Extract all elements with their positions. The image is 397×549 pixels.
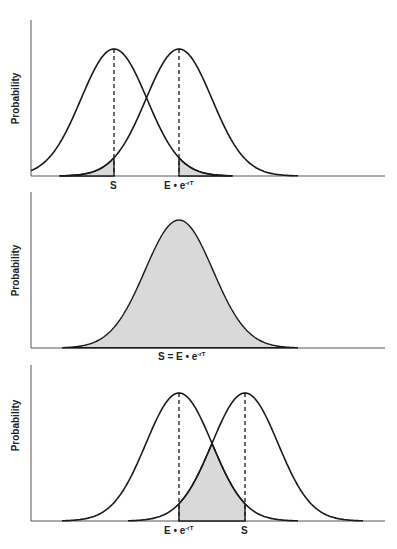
middle-xlabel-sup: -rT <box>197 351 205 357</box>
bottom-xlabel-ee-base: E • e <box>164 525 185 536</box>
bottom-xlabel-ee-sup: -rT <box>185 525 193 531</box>
middle-xlabel-base: S = E • e <box>158 351 197 362</box>
top-xlabel-s: S <box>110 180 117 191</box>
top-ylabel: Probability <box>10 69 21 129</box>
curves-layer <box>31 20 385 521</box>
middle-shaded-curve <box>62 220 298 348</box>
bottom-shade-middle <box>179 443 245 521</box>
top-xlabel-ee-sup: -rT <box>185 180 193 186</box>
bottom-ylabel: Probability <box>10 396 21 456</box>
top-xlabel-ee: E • e-rT <box>164 180 193 191</box>
middle-xlabel: S = E • e-rT <box>158 351 205 362</box>
diagram-canvas <box>0 0 397 549</box>
middle-ylabel: Probability <box>10 241 21 301</box>
top-xlabel-ee-base: E • e <box>164 180 185 191</box>
bottom-xlabel-ee: E • e-rT <box>164 525 193 536</box>
bottom-xlabel-s: S <box>241 525 248 536</box>
top-curve-left <box>31 49 232 176</box>
